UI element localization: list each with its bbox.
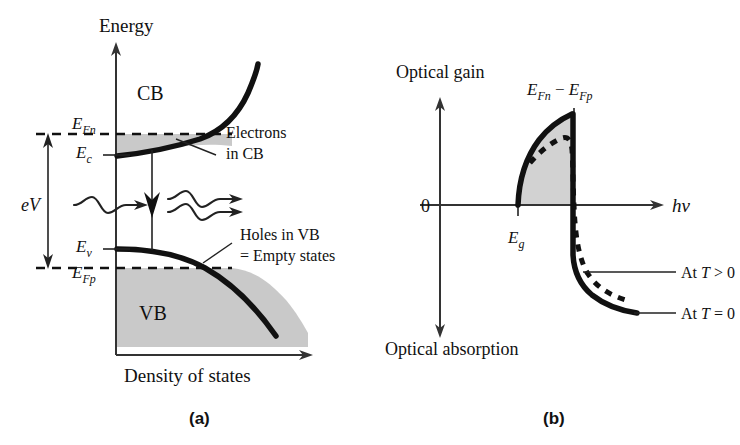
panel-b-zero-tick-label: 0 bbox=[421, 196, 430, 216]
ev-bias-label: eV bbox=[21, 195, 42, 215]
e-fp-sub: Fp bbox=[81, 272, 95, 286]
e-v-sub: v bbox=[86, 246, 92, 260]
panel-b-caption: (b) bbox=[543, 409, 565, 428]
vb-band-label: VB bbox=[139, 302, 167, 324]
e-fn-base: E bbox=[71, 114, 83, 133]
cb-band-label: CB bbox=[137, 82, 164, 104]
panel-a-caption: (a) bbox=[189, 409, 210, 428]
holes-in-vb-label-line1: Holes in VB bbox=[240, 226, 320, 243]
e-c-base: E bbox=[75, 143, 87, 162]
absorption-drop-curve-t0 bbox=[573, 114, 637, 313]
panel-a-x-axis-label: Density of states bbox=[124, 365, 251, 386]
e-v-base: E bbox=[75, 237, 87, 256]
panel-b-y-axis-label-top: Optical gain bbox=[396, 62, 484, 82]
holes-in-vb-leader bbox=[203, 243, 232, 263]
electrons-in-cb-label-line2: in CB bbox=[226, 145, 264, 162]
holes-in-vb-label-line2: = Empty states bbox=[240, 247, 335, 265]
e-c-sub: c bbox=[86, 152, 92, 166]
at-t-zero-label: At T = 0 bbox=[681, 305, 735, 322]
outgoing-photon-wave-1 bbox=[168, 191, 234, 207]
panel-b: Optical gain Optical absorption 0 hv Eg … bbox=[385, 62, 735, 428]
panel-a-y-axis-label: Energy bbox=[99, 15, 154, 36]
e-fp-base: E bbox=[71, 263, 83, 282]
panel-b-y-axis-label-bottom: Optical absorption bbox=[385, 339, 518, 359]
e-v-label: Ev bbox=[75, 237, 92, 260]
e-g-base: E bbox=[507, 228, 519, 247]
electrons-in-cb-label-line1: Electrons bbox=[226, 124, 286, 141]
figure-root: Energy Density of states CB VB EFn Ec Ev… bbox=[0, 0, 740, 445]
figure-svg: Energy Density of states CB VB EFn Ec Ev… bbox=[0, 0, 740, 445]
e-g-sub: g bbox=[518, 237, 524, 251]
e-c-label: Ec bbox=[75, 143, 92, 166]
at-t-above-zero-label: At T > 0 bbox=[681, 264, 735, 281]
e-fp-label: EFp bbox=[71, 263, 96, 286]
panel-b-x-axis-label: hv bbox=[672, 195, 691, 216]
e-fn-sub: Fn bbox=[81, 123, 95, 137]
incoming-photon-wave bbox=[74, 197, 139, 213]
e-g-label: Eg bbox=[507, 228, 524, 251]
quasi-fermi-separation-label: EFn − EFp bbox=[526, 80, 593, 103]
panel-a: Energy Density of states CB VB EFn Ec Ev… bbox=[21, 15, 335, 428]
